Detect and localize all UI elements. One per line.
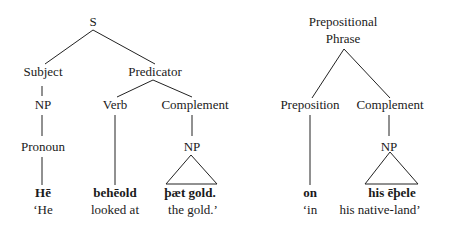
- node-complement-pp: Complement: [356, 98, 423, 112]
- word-oe-on: on: [303, 186, 317, 200]
- word-oe-thaet-gold: þæt gold.: [164, 186, 215, 200]
- word-oe-beheold: behēold: [93, 186, 136, 200]
- node-pronoun: Pronoun: [21, 140, 65, 154]
- node-verb: Verb: [103, 98, 128, 112]
- gloss-looked-at: looked at: [91, 203, 139, 217]
- gloss-in: ‘in: [303, 203, 317, 217]
- node-prepositional: Prepositional: [309, 15, 378, 29]
- node-np-pp: NP: [381, 140, 398, 154]
- gloss-the-gold: the gold.’: [168, 203, 218, 217]
- word-oe-he: Hē: [35, 186, 51, 200]
- gloss-his-native-land: his native-land’: [339, 203, 420, 217]
- node-subject: Subject: [24, 65, 63, 79]
- gloss-he: ‘He: [33, 203, 53, 217]
- node-phrase: Phrase: [326, 32, 361, 46]
- node-complement: Complement: [161, 98, 228, 112]
- node-preposition: Preposition: [280, 98, 339, 112]
- node-predicator: Predicator: [128, 65, 181, 79]
- tree-lines: [0, 0, 455, 236]
- node-np-subject: NP: [35, 98, 52, 112]
- node-s: S: [89, 15, 96, 29]
- word-oe-his-ethele: his ēþele: [368, 186, 415, 200]
- node-np-complement: NP: [184, 140, 201, 154]
